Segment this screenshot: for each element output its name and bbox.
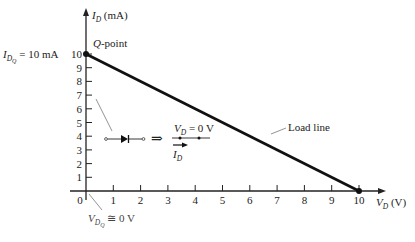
load-line-leader: [271, 128, 286, 134]
load-line-label: Load line: [288, 121, 330, 133]
short-node-left: [179, 137, 182, 140]
short-vd-label: VD = 0 V: [174, 122, 214, 137]
x-axis-arrowhead-icon: [378, 188, 386, 194]
q-point-label: Q-point: [93, 37, 127, 49]
short-node-right: [198, 137, 201, 140]
y-tick-label: 2: [77, 158, 83, 170]
diode-terminal-right: [142, 138, 145, 141]
x-tick-label: 0: [77, 194, 83, 206]
x-tick-label: 2: [138, 194, 144, 206]
diode-leader: [96, 99, 112, 131]
implies-arrow-icon: ⇒: [151, 131, 163, 146]
q-point-marker: [83, 51, 89, 57]
diode-symbol: [96, 99, 145, 143]
x-axis-label: VD (V): [376, 196, 407, 211]
diode-triangle-icon: [121, 135, 128, 143]
x-tick-labels: 012345678910: [77, 194, 365, 206]
y-tick-label: 4: [77, 130, 83, 142]
y-tick-label: 3: [77, 144, 83, 156]
y-tick-label: 7: [77, 89, 83, 101]
short-circuit-equivalent: VD = 0 V ID: [172, 122, 214, 163]
x-tick-label: 8: [302, 194, 308, 206]
current-arrow-icon: [182, 143, 188, 148]
vdq-leader: [89, 194, 102, 210]
x-tick-label: 9: [329, 194, 335, 206]
vdq-label: VDQ ≅ 0 V: [88, 212, 135, 228]
load-line-diagram: 12345678910 012345678910 ID (mA) VD (V) …: [0, 0, 415, 242]
idq-label: IDQ = 10 mA: [2, 48, 58, 64]
y-tick-label: 10: [71, 48, 83, 60]
diode-terminal-left: [105, 138, 108, 141]
x-intercept-marker: [356, 188, 362, 194]
short-id-label: ID: [172, 148, 183, 163]
y-tick-labels: 12345678910: [71, 48, 83, 183]
x-tick-label: 4: [192, 194, 198, 206]
x-tick-label: 5: [220, 194, 226, 206]
y-tick-label: 8: [77, 75, 83, 87]
x-tick-label: 7: [274, 194, 280, 206]
x-tick-label: 6: [247, 194, 253, 206]
y-tick-label: 6: [77, 103, 83, 115]
x-tick-label: 3: [165, 194, 171, 206]
x-ticks: [113, 185, 359, 191]
y-tick-label: 9: [77, 62, 83, 74]
y-tick-label: 1: [77, 171, 83, 183]
y-axis-label: ID (mA): [91, 9, 128, 24]
y-axis-arrowhead-icon: [83, 8, 89, 16]
y-ticks: [86, 54, 92, 177]
y-tick-label: 5: [77, 117, 83, 129]
x-tick-label: 10: [354, 194, 366, 206]
x-tick-label: 1: [111, 194, 117, 206]
